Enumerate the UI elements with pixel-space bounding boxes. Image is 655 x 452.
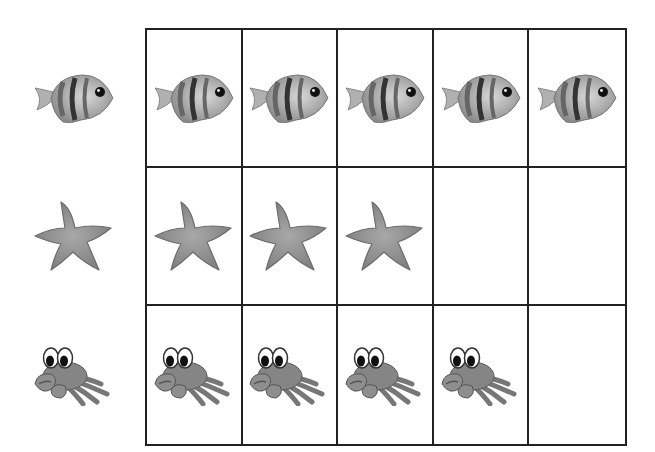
- grid-cell-fish-2: [243, 30, 339, 168]
- grid-cell-starfish-2: [243, 168, 339, 306]
- grid-cell-fish-5: [529, 30, 625, 168]
- grid-cell-starfish-5: [529, 168, 625, 306]
- grid-cell-crab-3: [338, 306, 434, 444]
- starfish-icon: [344, 198, 426, 274]
- legend-starfish: Starfish: [26, 167, 122, 305]
- fish-icon: [153, 70, 235, 126]
- fish-icon: [248, 70, 330, 126]
- crab-icon: [31, 344, 117, 406]
- grid-cell-crab-4: [434, 306, 530, 444]
- grid-cell-crab-2: [243, 306, 339, 444]
- crab-icon: [342, 344, 428, 406]
- starfish-icon: [153, 198, 235, 274]
- count-grid: [145, 28, 627, 446]
- starfish-icon: [248, 198, 330, 274]
- page-title: Picture count grid: [0, 0, 1, 1]
- grid-cell-fish-1: [147, 30, 243, 168]
- starfish-icon: [33, 198, 115, 274]
- fish-icon: [536, 70, 618, 126]
- fish-icon: [33, 70, 115, 126]
- legend-fish: Fish: [26, 29, 122, 167]
- grid-cell-fish-3: [338, 30, 434, 168]
- crab-icon: [151, 344, 237, 406]
- grid-cell-crab-1: [147, 306, 243, 444]
- crab-icon: [246, 344, 332, 406]
- grid-cell-starfish-3: [338, 168, 434, 306]
- grid-cell-starfish-1: [147, 168, 243, 306]
- grid-cell-starfish-4: [434, 168, 530, 306]
- grid-cell-crab-5: [529, 306, 625, 444]
- legend-crab: Crab: [26, 306, 122, 444]
- grid-cell-fish-4: [434, 30, 530, 168]
- fish-icon: [344, 70, 426, 126]
- crab-icon: [438, 344, 524, 406]
- fish-icon: [440, 70, 522, 126]
